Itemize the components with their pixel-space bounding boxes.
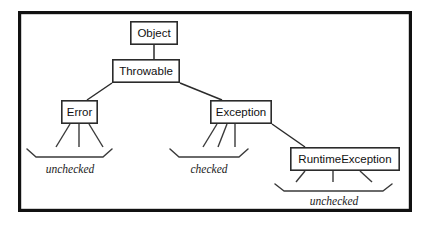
class-label-error: Error xyxy=(67,106,93,118)
diagram-canvas: ObjectThrowableErrorExceptionRuntimeExce… xyxy=(0,0,425,225)
class-label-throwable: Throwable xyxy=(119,65,173,77)
group-label-error-group: unchecked xyxy=(46,163,95,175)
class-label-object: Object xyxy=(137,27,171,39)
class-label-exception: Exception xyxy=(216,106,267,118)
class-label-runtimeexception: RuntimeException xyxy=(298,153,391,165)
group-label-runtimeexception-group: unchecked xyxy=(310,195,359,207)
group-label-exception-group: checked xyxy=(190,163,227,175)
class-hierarchy-diagram: ObjectThrowableErrorExceptionRuntimeExce… xyxy=(0,0,425,225)
